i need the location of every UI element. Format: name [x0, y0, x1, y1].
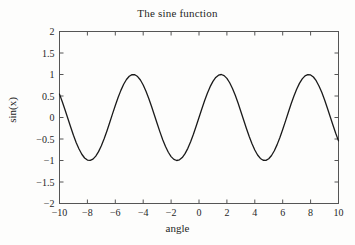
data-series-sine — [60, 75, 339, 161]
x-tick-labels: −10−8−6−4−20246810 — [52, 207, 344, 218]
figure-canvas: The sine function sin(x) angle −10−8−6−4… — [0, 0, 355, 245]
svg-text:−8: −8 — [82, 207, 93, 218]
svg-text:−2: −2 — [166, 207, 177, 218]
svg-text:−1: −1 — [44, 155, 55, 166]
svg-text:0: 0 — [50, 112, 55, 123]
plot-area: −10−8−6−4−20246810 −2−1.5−1−0.500.511.52 — [0, 0, 355, 245]
svg-text:8: 8 — [308, 207, 313, 218]
svg-text:−1.5: −1.5 — [36, 177, 54, 188]
svg-text:−2: −2 — [44, 198, 55, 209]
svg-text:10: 10 — [334, 207, 344, 218]
svg-text:6: 6 — [280, 207, 285, 218]
svg-text:1.5: 1.5 — [42, 48, 55, 59]
svg-text:−4: −4 — [138, 207, 149, 218]
svg-text:2: 2 — [224, 207, 229, 218]
y-tick-labels: −2−1.5−1−0.500.511.52 — [36, 26, 54, 209]
svg-text:0: 0 — [197, 207, 202, 218]
svg-text:−6: −6 — [110, 207, 121, 218]
svg-text:4: 4 — [252, 207, 257, 218]
svg-text:0.5: 0.5 — [42, 91, 55, 102]
svg-text:1: 1 — [50, 69, 55, 80]
svg-text:2: 2 — [50, 26, 55, 37]
svg-text:−0.5: −0.5 — [36, 134, 54, 145]
